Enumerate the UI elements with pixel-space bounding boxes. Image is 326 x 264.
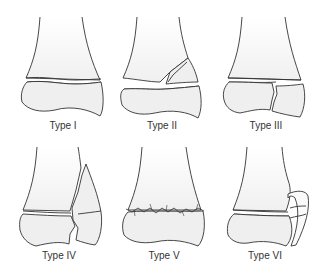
shaft [23, 147, 81, 211]
fracture-diagram [0, 0, 326, 264]
panel-type-1 [21, 17, 103, 116]
epiphysis-lateral [272, 84, 305, 117]
label-type-3: Type III [226, 120, 306, 131]
epiphysis-medial [223, 82, 274, 113]
label-type-1: Type I [23, 120, 103, 131]
panel-type-5 [123, 147, 205, 246]
label-type-2: Type II [122, 120, 202, 131]
shaft [128, 147, 201, 210]
label-type-4: Type IV [19, 250, 99, 261]
panel-type-4 [20, 147, 102, 246]
shaft [228, 17, 301, 80]
epiphysis [21, 81, 103, 116]
shaft [26, 17, 100, 80]
panel-type-3 [223, 17, 304, 117]
shaft [233, 147, 290, 211]
epiphysis [121, 86, 201, 118]
epiphysis [227, 214, 291, 246]
panel-type-6 [227, 147, 308, 246]
label-type-6: Type VI [225, 250, 305, 261]
epiphysis [123, 211, 205, 246]
epiphysis [20, 214, 75, 246]
label-type-5: Type V [124, 250, 204, 261]
panel-type-2 [121, 17, 201, 118]
